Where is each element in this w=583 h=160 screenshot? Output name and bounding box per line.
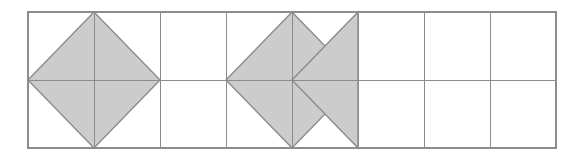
figure-root [0,0,583,160]
geometry-diagram [0,0,583,160]
